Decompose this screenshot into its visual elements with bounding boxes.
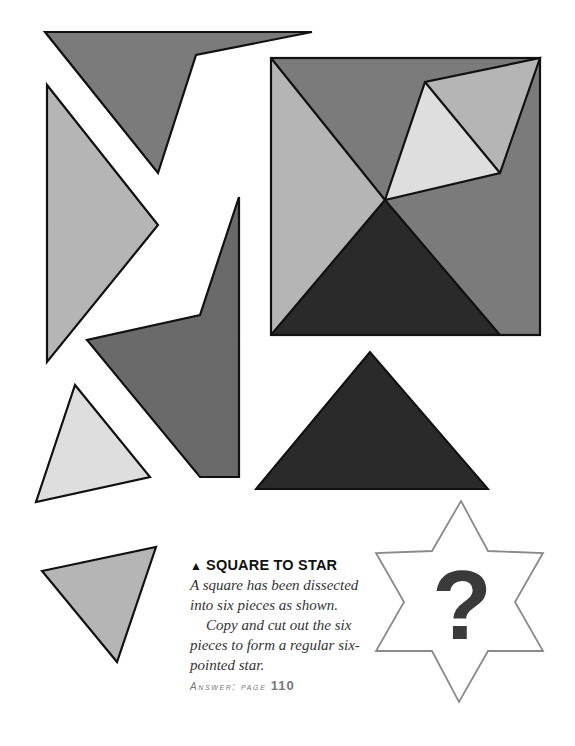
assembled-square bbox=[271, 58, 540, 335]
piece-small-lightest bbox=[36, 385, 150, 502]
triangle-up-icon: ▲ bbox=[190, 559, 202, 573]
answer-page-number: 110 bbox=[271, 678, 295, 693]
puzzle-caption: ▲SQUARE TO STAR A square has been dissec… bbox=[190, 557, 380, 693]
puzzle-description: A square has been dissected into six pie… bbox=[190, 575, 380, 675]
piece-bottom-light bbox=[42, 547, 156, 662]
description-paragraph-1: A square has been dissected into six pie… bbox=[190, 575, 380, 615]
puzzle-title: ▲SQUARE TO STAR bbox=[190, 557, 380, 573]
answer-label: Answer: page bbox=[190, 681, 266, 692]
description-paragraph-2: Copy and cut out the six pieces to form … bbox=[190, 615, 380, 675]
question-mark-icon: ? bbox=[424, 556, 500, 654]
puzzle-title-text: SQUARE TO STAR bbox=[206, 557, 337, 573]
piece-dark-triangle bbox=[256, 352, 488, 489]
answer-reference: Answer: page 110 bbox=[190, 678, 380, 693]
